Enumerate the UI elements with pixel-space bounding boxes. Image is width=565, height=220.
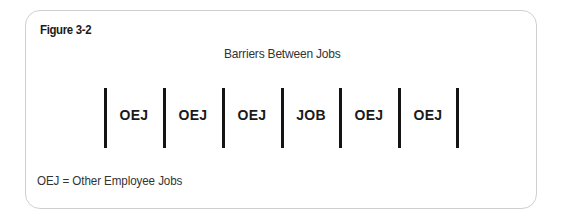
diagram-title: Barriers Between Jobs	[0, 46, 565, 61]
job-cell-oej: OEJ	[165, 107, 221, 123]
job-cell-job: JOB	[283, 107, 339, 123]
diagram-title-text: Barriers Between Jobs	[224, 46, 340, 61]
job-cell-oej: OEJ	[106, 107, 162, 123]
job-cell-oej: OEJ	[224, 107, 280, 123]
figure-label: Figure 3-2	[40, 22, 91, 37]
barrier-line	[456, 88, 459, 148]
job-cell-oej: OEJ	[341, 107, 397, 123]
legend-footnote: OEJ = Other Employee Jobs	[37, 174, 182, 188]
job-cell-oej: OEJ	[400, 107, 456, 123]
